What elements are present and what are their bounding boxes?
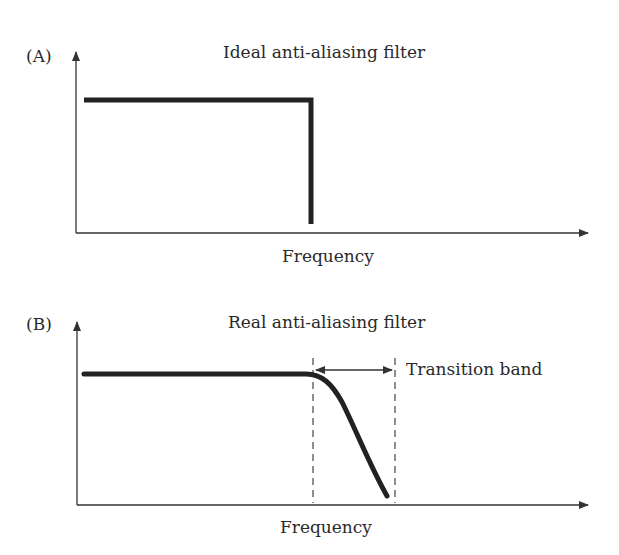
panel-a-title: Ideal anti-aliasing filter xyxy=(223,42,426,62)
panel-a: (A) Ideal anti-aliasing filter Frequency xyxy=(26,42,588,266)
panel-b: (B) Real anti-aliasing filter Transition… xyxy=(26,312,588,537)
panel-b-title: Real anti-aliasing filter xyxy=(228,312,426,332)
transition-band-label: Transition band xyxy=(406,359,543,379)
panel-b-label: (B) xyxy=(26,314,52,334)
filter-diagram: (A) Ideal anti-aliasing filter Frequency… xyxy=(0,0,619,555)
ideal-filter-curve xyxy=(84,100,311,224)
panel-a-label: (A) xyxy=(26,46,52,66)
panel-a-xlabel: Frequency xyxy=(282,246,374,266)
real-filter-curve xyxy=(84,374,387,496)
panel-b-xlabel: Frequency xyxy=(280,517,372,537)
